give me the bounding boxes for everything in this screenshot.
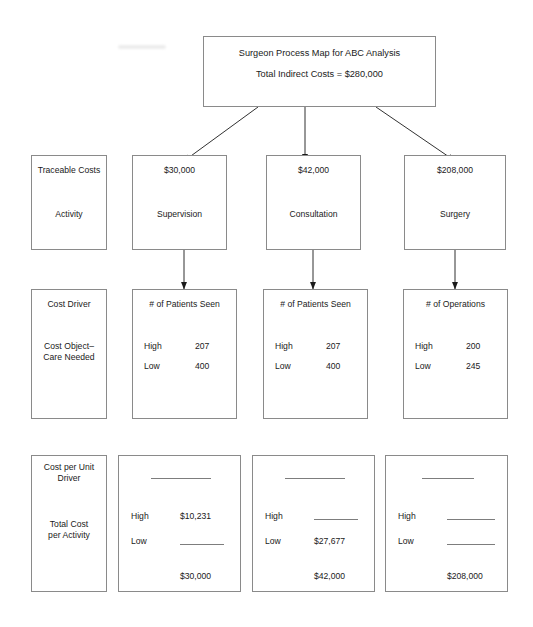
driver-low-label: Low [415, 361, 431, 372]
cost-high-label: High [265, 511, 283, 522]
row-label-cost-box: Cost per Unit Driver Total Cost per Acti… [31, 455, 107, 592]
cost-object-line-2: Care Needed [32, 352, 106, 363]
cost-low-value: $27,677 [314, 536, 345, 547]
cost-low-label: Low [131, 536, 147, 547]
driver-high-value: 200 [466, 341, 480, 352]
driver-low-label: Low [275, 361, 291, 372]
activity-name: Consultation [267, 209, 360, 220]
cost-per-unit-line-1: Cost per Unit [32, 462, 106, 473]
activity-box-surgery: $208,000 Surgery [404, 155, 506, 250]
driver-box-consultation: # of Patients Seen High 207 Low 400 [263, 289, 368, 419]
cost-high-blank-rule [314, 519, 358, 520]
activity-name: Supervision [133, 209, 226, 220]
unit-rate-blank-rule [422, 478, 474, 479]
cost-low-label: Low [398, 536, 414, 547]
traceable-costs-label: Traceable Costs [32, 165, 106, 176]
unit-rate-blank-rule [151, 478, 211, 479]
cost-low-label: Low [265, 536, 281, 547]
activity-label: Activity [32, 209, 106, 220]
cost-box-surgery: High Low $208,000 [385, 455, 508, 592]
total-cost-line-2: per Activity [32, 530, 106, 541]
driver-low-value: 400 [195, 361, 209, 372]
row-label-activity-box: Traceable Costs Activity [31, 155, 107, 250]
cost-driver-label: Cost Driver [32, 299, 106, 310]
driver-box-surgery: # of Operations High 200 Low 245 [403, 289, 508, 419]
title-line-2: Total Indirect Costs = $280,000 [204, 68, 435, 80]
driver-box-supervision: # of Patients Seen High 207 Low 400 [132, 289, 237, 419]
cost-total-value: $30,000 [180, 571, 211, 582]
activity-amount: $208,000 [405, 165, 505, 176]
title-box: Surgeon Process Map for ABC Analysis Tot… [203, 36, 436, 107]
cost-per-unit-line-2: Driver [32, 473, 106, 484]
scan-artifact [118, 45, 166, 49]
activity-box-consultation: $42,000 Consultation [266, 155, 361, 250]
cost-total-value: $42,000 [314, 571, 345, 582]
driver-high-label: High [275, 341, 293, 352]
cost-high-value: $10,231 [180, 511, 211, 522]
cost-high-label: High [398, 511, 416, 522]
driver-name: # of Patients Seen [264, 299, 367, 310]
activity-name: Surgery [405, 209, 505, 220]
driver-high-label: High [415, 341, 433, 352]
total-cost-line-1: Total Cost [32, 519, 106, 530]
cost-high-label: High [131, 511, 149, 522]
activity-amount: $42,000 [267, 165, 360, 176]
activity-amount: $30,000 [133, 165, 226, 176]
row-label-driver-box: Cost Driver Cost Object– Care Needed [31, 289, 107, 419]
cost-total-value: $208,000 [447, 571, 483, 582]
driver-low-label: Low [144, 361, 160, 372]
cost-low-blank-rule [447, 544, 495, 545]
cost-low-blank-rule [180, 544, 224, 545]
cost-box-supervision: High $10,231 Low $30,000 [118, 455, 241, 592]
driver-high-value: 207 [195, 341, 209, 352]
cost-box-consultation: High Low $27,677 $42,000 [252, 455, 375, 592]
driver-high-label: High [144, 341, 162, 352]
driver-high-value: 207 [326, 341, 340, 352]
title-line-1: Surgeon Process Map for ABC Analysis [204, 47, 435, 59]
driver-name: # of Patients Seen [133, 299, 236, 310]
activity-box-supervision: $30,000 Supervision [132, 155, 227, 250]
unit-rate-blank-rule [285, 478, 345, 479]
driver-name: # of Operations [404, 299, 507, 310]
driver-low-value: 400 [326, 361, 340, 372]
cost-object-line-1: Cost Object– [32, 341, 106, 352]
process-map-diagram: Surgeon Process Map for ABC Analysis Tot… [0, 0, 533, 627]
driver-low-value: 245 [466, 361, 480, 372]
cost-high-blank-rule [447, 519, 495, 520]
